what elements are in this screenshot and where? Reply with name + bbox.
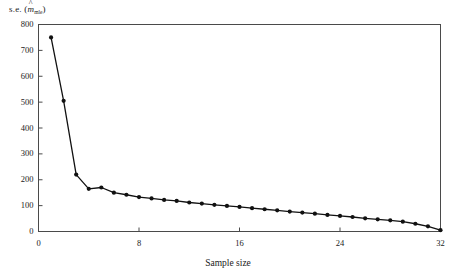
x-tick-label: 16	[228, 239, 252, 248]
data-point	[288, 209, 292, 213]
y-tick-label: 600	[4, 72, 34, 81]
data-point	[413, 222, 417, 226]
data-point	[49, 35, 53, 39]
x-tick-label: 8	[127, 239, 151, 248]
data-point	[263, 207, 267, 211]
data-point	[275, 208, 279, 212]
y-tick-label: 400	[4, 124, 34, 133]
y-tick-label: 300	[4, 149, 34, 158]
data-point	[175, 199, 179, 203]
data-point	[137, 195, 141, 199]
y-axis-label-symbol: ^m	[27, 5, 34, 14]
x-tick-label: 24	[328, 239, 352, 248]
y-axis-label: s.e. (^mmle)	[9, 5, 46, 16]
chart-figure: s.e. (^mmle) 8007006005004003002001000 0…	[0, 0, 456, 280]
x-tick-label: 0	[27, 239, 51, 248]
x-tick-label: 32	[429, 239, 453, 248]
data-point	[87, 187, 91, 191]
data-point	[124, 193, 128, 197]
data-point	[187, 200, 191, 204]
y-tick-label: 500	[4, 98, 34, 107]
data-point	[237, 205, 241, 209]
data-point	[212, 203, 216, 207]
y-tick-label: 800	[4, 20, 34, 29]
data-point	[99, 185, 103, 189]
data-point	[350, 215, 354, 219]
y-tick-label: 200	[4, 175, 34, 184]
data-point	[363, 216, 367, 220]
data-point	[162, 198, 166, 202]
data-point	[250, 206, 254, 210]
data-point	[112, 191, 116, 195]
data-point	[438, 228, 442, 232]
plot-frame	[39, 25, 441, 232]
data-point	[376, 217, 380, 221]
y-axis-label-suffix: )	[42, 4, 45, 14]
data-point	[338, 214, 342, 218]
y-tick-label: 100	[4, 201, 34, 210]
data-point	[62, 99, 66, 103]
data-point	[200, 201, 204, 205]
data-point	[325, 213, 329, 217]
data-point	[74, 172, 78, 176]
hat-accent-icon: ^	[27, 0, 34, 8]
data-point	[149, 196, 153, 200]
x-axis-label: Sample size	[0, 258, 456, 268]
y-tick-label: 0	[4, 227, 34, 236]
y-axis-label-prefix: s.e. (	[9, 4, 27, 14]
data-point	[225, 204, 229, 208]
data-point	[300, 211, 304, 215]
data-point	[426, 224, 430, 228]
data-point	[313, 212, 317, 216]
data-point	[388, 218, 392, 222]
data-point	[401, 220, 405, 224]
y-tick-label: 700	[4, 46, 34, 55]
